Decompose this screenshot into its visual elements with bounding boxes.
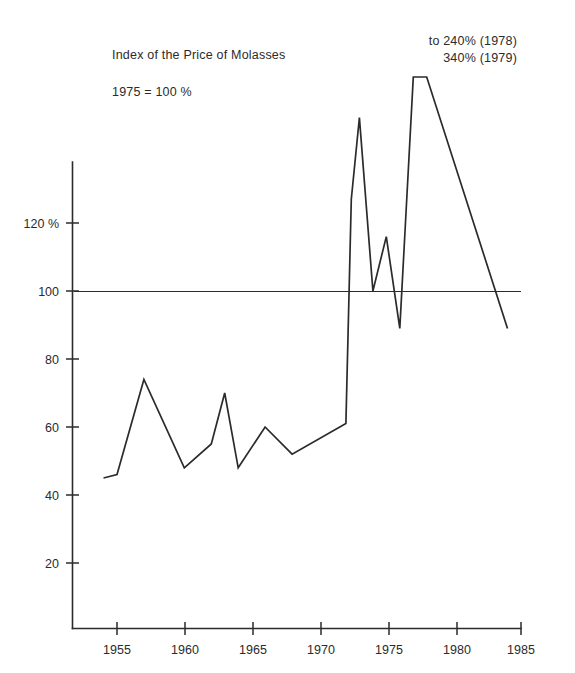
y-tick-label-40: 40 (45, 489, 59, 503)
x-axis-tick-labels: 1955 1960 1965 1970 1975 1980 1985 (103, 643, 535, 657)
y-tick-label-20: 20 (45, 557, 59, 571)
x-tick-label-1980: 1980 (443, 643, 471, 657)
y-tick-label-60: 60 (45, 421, 59, 435)
x-tick-label-1965: 1965 (239, 643, 267, 657)
x-tick-label-1955: 1955 (103, 643, 131, 657)
y-tick-label-80: 80 (45, 353, 59, 367)
y-tick-label-120: 120 % (24, 217, 59, 231)
y-tick-label-100: 100 (38, 285, 59, 299)
x-tick-label-1960: 1960 (171, 643, 199, 657)
y-axis-tick-labels: 120 % 100 80 60 40 20 (24, 217, 59, 571)
chart-figure: Index of the Price of Molasses 1975 = 10… (0, 0, 575, 673)
x-tick-label-1985: 1985 (507, 643, 535, 657)
x-tick-label-1975: 1975 (375, 643, 403, 657)
series-line-molasses-index (104, 77, 508, 478)
x-tick-label-1970: 1970 (307, 643, 335, 657)
chart-canvas: 120 % 100 80 60 40 20 1955 1960 1965 197… (0, 0, 575, 673)
